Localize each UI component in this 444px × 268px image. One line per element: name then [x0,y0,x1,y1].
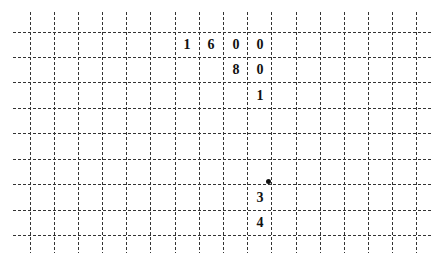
dashed-grid [0,0,444,268]
digit-cell: 1 [177,37,197,53]
digit-cell: 0 [226,37,246,53]
digit-cell: 4 [250,215,270,231]
decimal-point-dot [266,179,271,184]
digit-cell: 0 [250,37,270,53]
digit-cell: 0 [250,62,270,78]
digit-cell: 8 [226,62,246,78]
digit-cell: 3 [250,190,270,206]
digit-cell: 6 [201,37,221,53]
digit-cell: 1 [250,88,270,104]
